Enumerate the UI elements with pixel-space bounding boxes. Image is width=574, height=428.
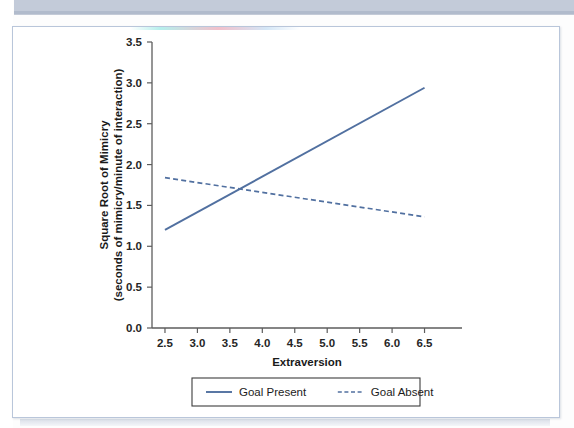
x-tick-label: 5.5: [352, 337, 369, 349]
page-bottom-shadow: [20, 419, 550, 426]
y-tick-label: 1.0: [126, 240, 142, 252]
x-tick-label: 2.5: [157, 337, 174, 349]
y-axis-ticks: 0.00.51.01.52.02.53.03.5: [126, 36, 152, 334]
y-axis-title-line1: Square Root of Mimicry: [98, 120, 110, 250]
x-tick-label: 3.0: [189, 337, 205, 349]
series-line-goal-present: [165, 88, 425, 230]
y-tick-label: 3.0: [126, 77, 142, 89]
data-series-group: [165, 88, 425, 230]
y-tick-label: 1.5: [126, 199, 143, 211]
x-axis-title: Extraversion: [272, 356, 342, 368]
y-axis-title-line2: (seconds of mimicry/minute of interactio…: [112, 69, 124, 302]
y-tick-label: 3.5: [126, 36, 143, 48]
y-tick-label: 0.0: [126, 322, 142, 334]
series-line-goal-absent: [165, 178, 425, 217]
y-tick-label: 2.5: [126, 118, 143, 130]
x-tick-label: 6.0: [384, 337, 400, 349]
x-tick-label: 3.5: [222, 337, 239, 349]
y-tick-label: 2.0: [126, 159, 142, 171]
x-tick-label: 4.0: [254, 337, 270, 349]
chart-plot-area: 0.00.51.01.52.02.53.03.5 2.53.03.54.04.5…: [12, 26, 560, 418]
page-top-band-shadow: [14, 11, 574, 15]
x-axis-ticks: 2.53.03.54.04.55.05.56.06.5: [157, 328, 433, 349]
x-tick-label: 4.5: [287, 337, 304, 349]
legend-label-goal-absent: Goal Absent: [371, 386, 434, 398]
y-tick-label: 0.5: [126, 281, 143, 293]
x-tick-label: 5.0: [319, 337, 335, 349]
x-tick-label: 6.5: [417, 337, 434, 349]
line-chart-svg: 0.00.51.01.52.02.53.03.5 2.53.03.54.04.5…: [12, 26, 560, 418]
chart-legend: Goal PresentGoal Absent: [192, 378, 434, 406]
legend-label-goal-present: Goal Present: [239, 386, 307, 398]
